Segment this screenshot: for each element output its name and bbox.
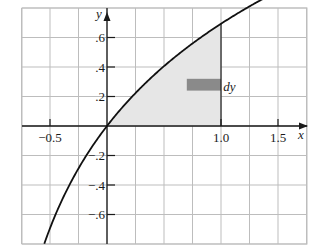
y-tick-label: −.4 — [88, 178, 106, 193]
chart-plot: −0.51.01.5.6.4.2−.2−.4−.6yxdy — [0, 0, 314, 250]
y-axis-arrow-icon — [104, 12, 111, 21]
y-tick-label: −.2 — [88, 148, 105, 163]
x-tick-label: −0.5 — [38, 130, 62, 145]
y-tick-label: .2 — [95, 89, 105, 104]
y-tick-label: .4 — [95, 60, 105, 75]
x-tick-label: 1.0 — [213, 130, 229, 145]
x-axis-label: x — [297, 127, 304, 142]
y-tick-label: .6 — [95, 30, 105, 45]
axes — [22, 8, 308, 244]
y-tick-label: −.6 — [88, 207, 106, 222]
x-tick-label: 1.5 — [270, 130, 286, 145]
dy-strip-rect — [187, 79, 221, 91]
dy-strip — [187, 79, 221, 91]
dy-annotation: dy — [223, 79, 236, 94]
y-axis-label: y — [94, 6, 102, 21]
